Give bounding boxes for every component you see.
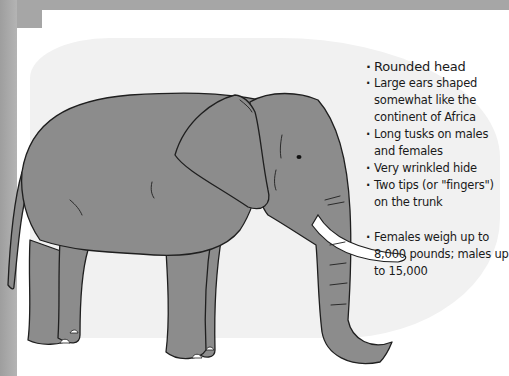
note-trunk-tips: Two tips (or "fingers") on the trunk [366,177,509,211]
note-rounded-head: Rounded head [366,58,509,75]
note-wrinkled-hide: Very wrinkled hide [366,160,509,177]
elephant-eye [297,155,302,159]
note-weight: Females weigh up to 8,000 pounds; males … [366,229,509,280]
elephant-hind-leg-right [58,240,88,343]
note-large-ears: Large ears shaped somewhat like the cont… [366,75,509,126]
note-long-tusks: Long tusks on males and females [366,126,509,160]
annotation-notes: Rounded head Large ears shaped somewhat … [366,58,509,280]
